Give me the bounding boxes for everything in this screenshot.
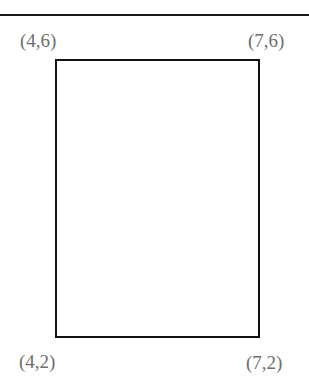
rectangle-shape [55,59,260,338]
top-divider-line [0,14,309,16]
vertex-label-bottom-left: (4,2) [19,352,55,371]
vertex-label-top-right: (7,6) [248,31,284,50]
vertex-label-bottom-right: (7,2) [246,353,282,372]
vertex-label-top-left: (4,6) [20,31,56,50]
